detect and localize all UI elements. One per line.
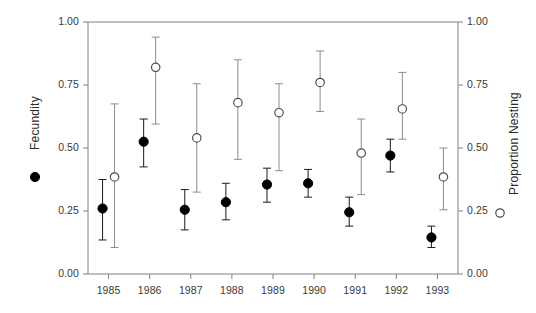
- x-axis-tick-label: 1991: [340, 284, 370, 296]
- data-point-filled-circle: [98, 204, 107, 213]
- legend-marker-proportion-nesting: [496, 209, 504, 217]
- left-axis-tick-label: 0.50: [58, 141, 79, 153]
- data-point-open-circle: [234, 98, 242, 106]
- left-axis-tick-label: 0.75: [58, 78, 79, 90]
- left-axis-tick-label: 0.00: [58, 267, 79, 279]
- data-point-open-circle: [110, 173, 118, 181]
- x-axis-tick-label: 1989: [258, 284, 288, 296]
- data-point-filled-circle: [180, 205, 189, 214]
- chart-canvas: [0, 0, 536, 313]
- data-point-filled-circle: [262, 180, 271, 189]
- right-axis-tick-label: 0.75: [467, 78, 488, 90]
- chart-figure: 0.000.250.500.751.000.000.250.500.751.00…: [0, 0, 536, 313]
- data-point-open-circle: [193, 134, 201, 142]
- data-point-open-circle: [275, 109, 283, 117]
- right-axis-tick-label: 0.50: [467, 141, 488, 153]
- x-axis-tick-label: 1993: [422, 284, 452, 296]
- x-axis-tick-label: 1988: [217, 284, 247, 296]
- data-point-open-circle: [151, 63, 159, 71]
- right-axis-tick-label: 0.25: [467, 204, 488, 216]
- legend-marker-fecundity: [30, 172, 39, 181]
- data-point-open-circle: [398, 105, 406, 113]
- data-point-filled-circle: [345, 208, 354, 217]
- data-point-open-circle: [357, 149, 365, 157]
- x-axis-tick-label: 1985: [94, 284, 124, 296]
- data-point-filled-circle: [427, 233, 436, 242]
- left-axis-tick-label: 0.25: [58, 204, 79, 216]
- x-axis-tick-label: 1987: [176, 284, 206, 296]
- series-fecundity: [98, 119, 436, 248]
- data-point-filled-circle: [304, 179, 313, 188]
- data-point-filled-circle: [221, 198, 230, 207]
- right-axis-tick-label: 1.00: [467, 15, 488, 27]
- x-axis-tick-label: 1986: [135, 284, 165, 296]
- series-proportion-nesting: [110, 37, 447, 247]
- x-axis-tick-label: 1990: [299, 284, 329, 296]
- right-axis-tick-label: 0.00: [467, 267, 488, 279]
- left-axis-title: Fecundity: [28, 96, 42, 150]
- right-axis-title: Proportion Nesting: [507, 92, 521, 195]
- x-axis-tick-label: 1992: [381, 284, 411, 296]
- left-axis-tick-label: 1.00: [58, 15, 79, 27]
- data-point-open-circle: [439, 173, 447, 181]
- data-point-filled-circle: [386, 151, 395, 160]
- data-point-open-circle: [316, 78, 324, 86]
- data-point-filled-circle: [139, 137, 148, 146]
